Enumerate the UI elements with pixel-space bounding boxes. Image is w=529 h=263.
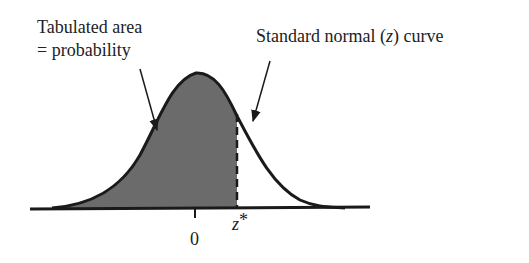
tick-label-zero: 0 xyxy=(190,229,199,249)
label-tabulated-area: Tabulated area xyxy=(37,17,142,37)
arrow-to-shaded-area xyxy=(140,69,157,130)
shaded-probability-area xyxy=(52,73,237,208)
label-probability: = probability xyxy=(37,40,131,60)
arrow-to-curve xyxy=(253,61,270,121)
normal-curve-diagram: 0 z* Tabulated area = probability Standa… xyxy=(0,0,529,263)
x-axis xyxy=(30,207,370,209)
label-standard-normal-curve: Standard normal (z) curve xyxy=(256,26,443,47)
tick-label-z-star: z* xyxy=(231,210,248,234)
